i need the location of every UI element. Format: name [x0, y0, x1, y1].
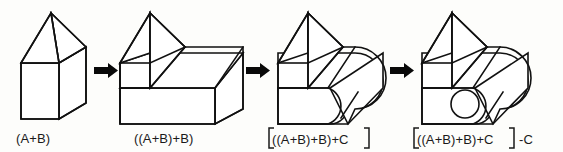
- csg-sequence-diagram: (A+B) ((A+B)+B) ((A+B)+B)+C ((A+B)+B)+C …: [0, 0, 563, 152]
- caption-step-1: (A+B): [16, 131, 50, 146]
- caption-step-2: ((A+B)+B): [134, 131, 193, 146]
- arrow-3: [390, 63, 414, 78]
- right-arrow-icon: [94, 63, 118, 78]
- caption-step-4: ((A+B)+B)+C -C: [414, 128, 533, 148]
- caption-step-2-text: ((A+B)+B): [134, 131, 193, 146]
- right-arrow-icon: [246, 63, 270, 78]
- caption-step-4-text: ((A+B)+B)+C: [417, 132, 494, 147]
- caption-step-3: ((A+B)+B)+C: [269, 128, 369, 148]
- right-arrow-icon: [390, 63, 414, 78]
- step-2-solid: [120, 13, 243, 124]
- step-3-solid: [278, 13, 386, 124]
- right-bracket-icon: [509, 128, 514, 148]
- arrow-2: [246, 63, 270, 78]
- arrow-1: [94, 63, 118, 78]
- caption-step-1-text: (A+B): [16, 131, 50, 146]
- right-bracket-icon: [364, 128, 369, 148]
- step-4-solid: [422, 13, 531, 124]
- step-1-solid: [21, 13, 86, 119]
- caption-step-3-text: ((A+B)+B)+C: [272, 132, 349, 147]
- caption-step-4-suffix: -C: [519, 132, 533, 147]
- figure-root: (A+B) ((A+B)+B) ((A+B)+B)+C ((A+B)+B)+C …: [0, 0, 563, 152]
- box-front-face: [21, 63, 59, 119]
- block-front-face: [120, 88, 215, 124]
